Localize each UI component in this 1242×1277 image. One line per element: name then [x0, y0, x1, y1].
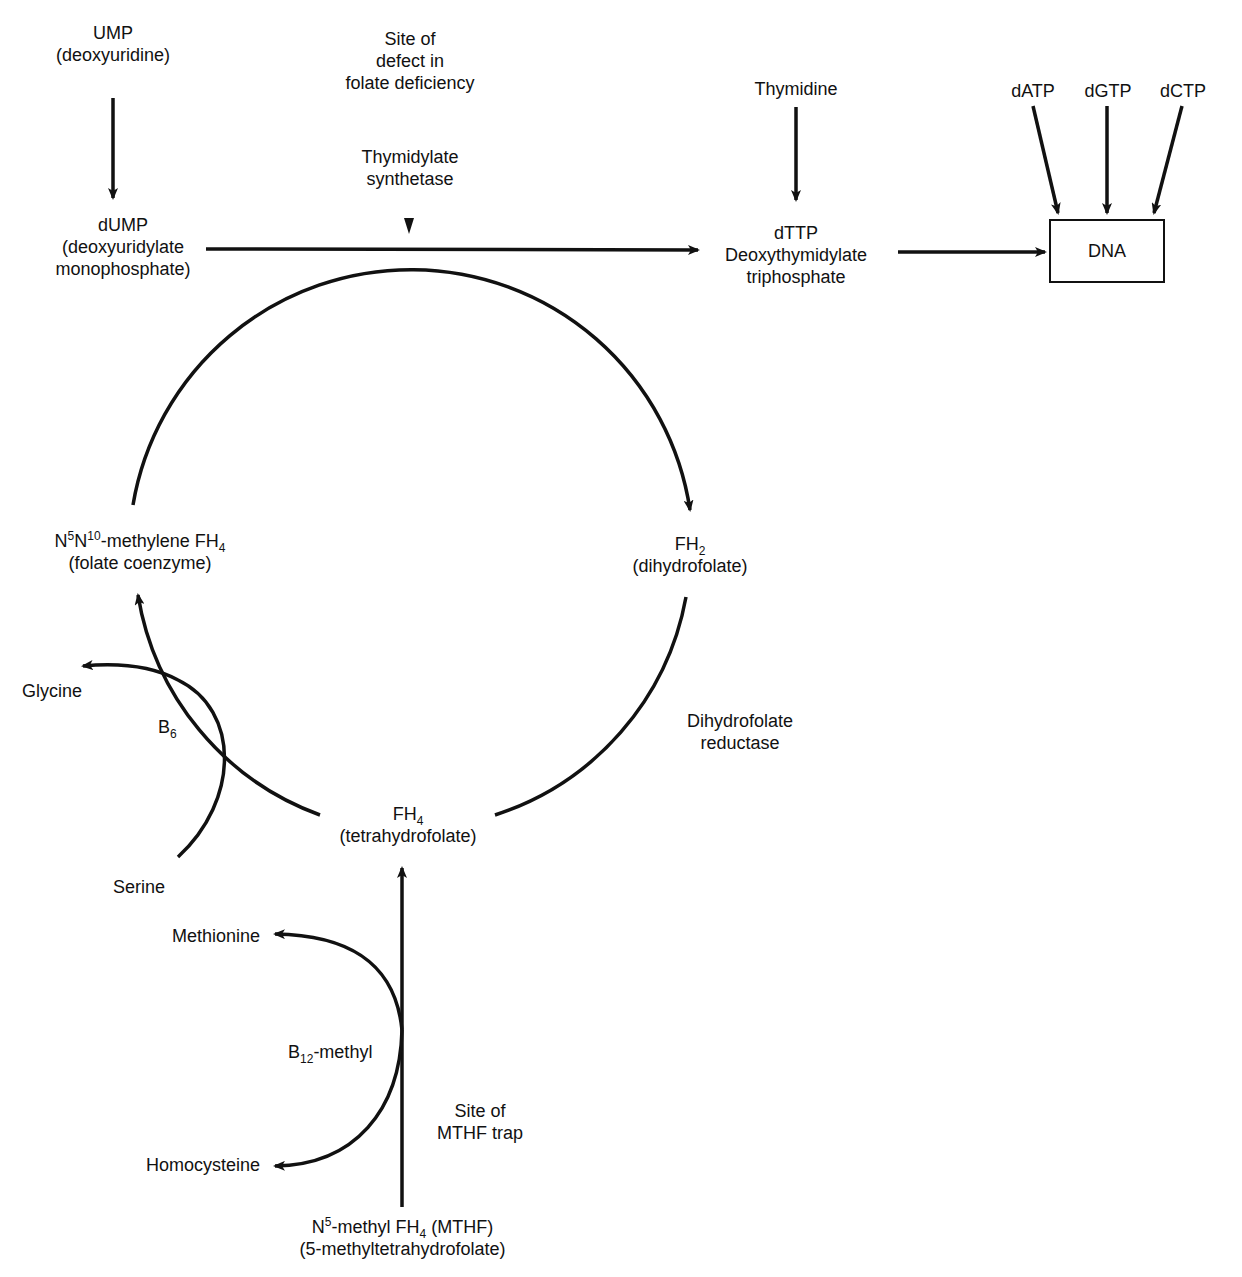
node-ump: UMP (deoxyuridine) [43, 22, 183, 66]
node-methylene-fh4: N5N10-methylene FH4 (folate coenzyme) [20, 530, 260, 574]
arrow-dump-dttp [206, 249, 698, 250]
pathway-arrows [0, 0, 1242, 1277]
node-dump: dUMP (deoxyuridylate monophosphate) [38, 214, 208, 280]
node-dctp: dCTP [1148, 80, 1218, 102]
node-fh4: FH4 (tetrahydrofolate) [318, 803, 498, 847]
cycle-arc-fh4-to-methylene [138, 595, 320, 815]
label-b6: B6 [158, 716, 177, 738]
node-glycine: Glycine [22, 680, 82, 702]
cycle-arc-methylene-to-fh2 [133, 270, 690, 510]
node-thymidine: Thymidine [736, 78, 856, 100]
label-dihydrofolate-reductase: Dihydrofolate reductase [660, 710, 820, 754]
node-methionine: Methionine [120, 925, 260, 947]
node-homocysteine: Homocysteine [100, 1154, 260, 1176]
cycle-arc-fh2-to-fh4 [495, 597, 686, 815]
node-datp: dATP [998, 80, 1068, 102]
label-thymidylate-synthetase: Thymidylate synthetase [335, 146, 485, 190]
node-dna: DNA [1049, 219, 1165, 283]
node-fh2: FH2 (dihydrofolate) [610, 533, 770, 577]
label-b12-methyl: B12-methyl [288, 1041, 372, 1063]
node-dttp: dTTP Deoxythymidylate triphosphate [706, 222, 886, 288]
node-dgtp: dGTP [1073, 80, 1143, 102]
node-mthf: N5-methyl FH4 (MTHF) (5-methyltetrahydro… [270, 1216, 535, 1260]
node-serine: Serine [113, 876, 165, 898]
synthetase-pointer-icon [404, 218, 414, 234]
arc-serine-glycine [83, 665, 225, 857]
label-site-of-mthf-trap: Site of MTHF trap [425, 1100, 535, 1144]
arc-b12-methionine [275, 934, 402, 1030]
label-site-of-defect: Site of defect in folate deficiency [320, 28, 500, 94]
arrow-datp-dna [1033, 106, 1058, 213]
arrow-dctp-dna [1154, 106, 1182, 213]
